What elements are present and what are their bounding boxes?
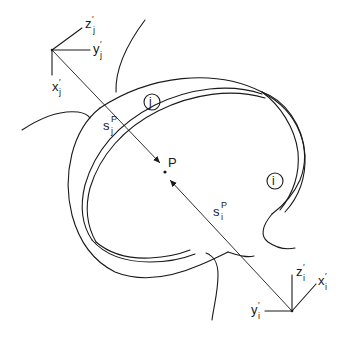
svg-text:i: i	[221, 212, 223, 222]
body-outlines	[22, 20, 295, 320]
svg-text:y: y	[251, 302, 258, 317]
svg-text:y: y	[93, 41, 100, 56]
point-p-label: P	[168, 155, 177, 170]
label-x-j: x ′ j	[52, 77, 61, 97]
label-y-i: y ′ i	[251, 300, 260, 321]
label-s-i: s P i	[213, 200, 227, 222]
z-axis-j	[52, 28, 82, 50]
svg-text:i: i	[272, 174, 275, 188]
svg-text:z: z	[296, 264, 303, 279]
body-i-label: i	[267, 173, 283, 189]
svg-text:j: j	[58, 87, 61, 97]
svg-text:s: s	[103, 118, 110, 133]
point-p	[163, 170, 166, 173]
svg-text:z: z	[85, 16, 92, 31]
svg-text:P: P	[111, 114, 117, 124]
label-z-i: z ′ i	[296, 262, 305, 283]
svg-text:′: ′	[59, 77, 61, 87]
body-j-label: j	[144, 94, 160, 110]
svg-text:x: x	[318, 273, 325, 288]
svg-text:′: ′	[325, 271, 327, 281]
svg-text:i: i	[303, 273, 305, 283]
svg-text:′: ′	[303, 262, 305, 272]
label-x-i: x ′ i	[318, 271, 327, 292]
svg-text:j: j	[99, 50, 102, 60]
svg-text:i: i	[325, 282, 327, 292]
svg-text:j: j	[148, 95, 152, 109]
svg-text:j: j	[92, 25, 95, 35]
x-axis-i	[292, 284, 316, 311]
frame-j	[51, 28, 90, 75]
svg-text:P: P	[221, 200, 227, 210]
frame-i	[265, 275, 316, 312]
svg-text:′: ′	[258, 300, 260, 310]
svg-text:s: s	[213, 204, 220, 219]
diagram-canvas: P j i z ′ j y ′ j x ′ j z ′ i x ′ i y ′ …	[0, 0, 345, 340]
label-s-j: s P j	[103, 114, 117, 136]
label-z-j: z ′ j	[85, 14, 95, 35]
svg-text:i: i	[258, 311, 260, 321]
svg-text:′: ′	[92, 14, 94, 24]
vector-s-j	[52, 50, 160, 163]
svg-text:x: x	[52, 79, 59, 94]
svg-text:′: ′	[100, 39, 102, 49]
svg-text:j: j	[110, 126, 113, 136]
label-y-j: y ′ j	[93, 39, 102, 60]
